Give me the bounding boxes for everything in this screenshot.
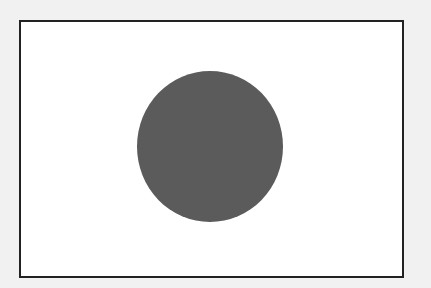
flag-disc [137,71,283,222]
flag-field [19,20,404,278]
